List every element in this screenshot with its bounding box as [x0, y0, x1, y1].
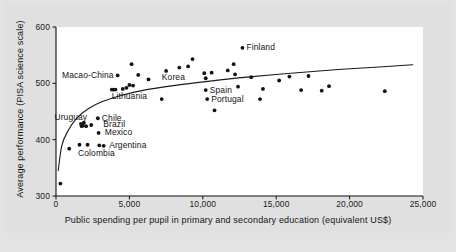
x-axis-label: Public spending per pupil in primary and… [0, 215, 456, 225]
country-label: Macao-China [62, 70, 114, 80]
y-tick-label: 600 [22, 22, 50, 32]
x-tick-label: 15,000 [263, 199, 290, 209]
country-label: Colombia [78, 148, 115, 158]
x-tick-label: 10,000 [189, 199, 216, 209]
country-label: Portugal [211, 94, 243, 104]
y-tick-label: 400 [22, 135, 50, 145]
country-label: Uruguay [54, 112, 87, 122]
y-axis-label: Average performance (PISA science scale) [15, 19, 25, 199]
x-tick-label: 20,000 [336, 199, 363, 209]
x-tick-label: 25,000 [410, 199, 437, 209]
country-label: Mexico [105, 127, 133, 137]
country-label: Finland [246, 42, 275, 52]
chart-figure: 05,00010,00015,00020,00025,000 300400500… [0, 0, 456, 252]
country-label: Korea [162, 72, 185, 82]
country-label: Lithuania [112, 91, 147, 101]
x-tick-label: 0 [54, 199, 59, 209]
y-tick-label: 500 [22, 78, 50, 88]
y-tick-label: 300 [22, 191, 50, 201]
x-tick-label: 5,000 [119, 199, 141, 209]
